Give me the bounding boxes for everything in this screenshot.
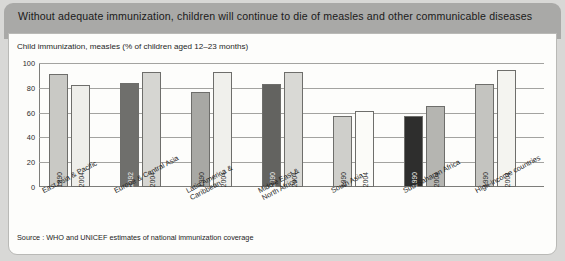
bar-group: 19902004 xyxy=(327,63,398,187)
bar: 1992 xyxy=(120,83,139,187)
y-axis-tick-label: 40 xyxy=(9,133,35,142)
figure-headline: Without adequate immunization, children … xyxy=(18,10,548,22)
y-axis-tick-label: 0 xyxy=(9,183,35,192)
y-axis-tick-label: 20 xyxy=(9,158,35,167)
bar: 1990 xyxy=(49,74,68,187)
bar: 1990 xyxy=(262,84,281,187)
bar-group: 19902004 xyxy=(469,63,540,187)
bar: 1990 xyxy=(191,92,210,187)
chart-figure: Without adequate immunization, children … xyxy=(0,0,565,261)
bar-group: 19902004 xyxy=(398,63,469,187)
source-note: Source : WHO and UNICEF estimates of nat… xyxy=(17,233,253,242)
bar: 1990 xyxy=(475,84,494,187)
y-axis-tick-label: 100 xyxy=(9,59,35,68)
y-axis-tick-label: 80 xyxy=(9,83,35,92)
chart-subtitle: Child immunization, measles (% of childr… xyxy=(17,42,248,51)
y-axis-tick-label: 60 xyxy=(9,108,35,117)
